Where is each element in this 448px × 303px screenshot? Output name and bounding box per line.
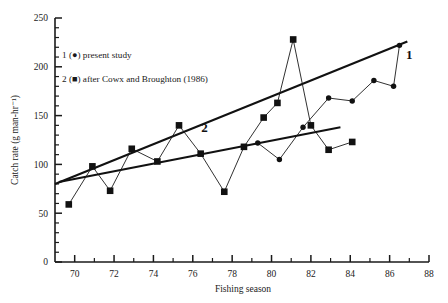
x-axis-tick-labels: 70727476788082848688 bbox=[70, 269, 434, 279]
x-tick-label: 80 bbox=[267, 269, 277, 279]
x-tick-label: 82 bbox=[306, 269, 316, 279]
data-point-series-1 bbox=[371, 78, 376, 83]
x-tick-label: 72 bbox=[109, 269, 119, 279]
series-annotation-2: 2 bbox=[201, 120, 208, 135]
data-point-series-2 bbox=[65, 201, 72, 208]
x-tick-label: 86 bbox=[385, 269, 395, 279]
x-axis-title: Fishing season bbox=[215, 284, 271, 294]
data-point-series-2 bbox=[107, 187, 114, 194]
x-tick-label: 88 bbox=[424, 269, 434, 279]
data-point-series-2 bbox=[325, 146, 332, 153]
data-point-series-2 bbox=[260, 114, 267, 121]
x-axis-ticks bbox=[75, 255, 429, 262]
legend-item-2: 2 (■) after Cowx and Broughton (1986) bbox=[62, 74, 208, 84]
chart-legend: 1 (●) present study 2 (■) after Cowx and… bbox=[62, 50, 208, 84]
data-point-series-1 bbox=[255, 140, 260, 145]
trend-lines bbox=[55, 41, 407, 183]
x-tick-label: 74 bbox=[149, 269, 159, 279]
data-point-series-2 bbox=[349, 139, 356, 146]
chart-figure: 050100150200250 70727476788082848688 Cat… bbox=[0, 0, 448, 303]
data-point-series-2 bbox=[154, 158, 161, 165]
legend-item-1: 1 (●) present study bbox=[62, 50, 132, 60]
data-point-series-2 bbox=[221, 188, 228, 195]
data-point-series-1 bbox=[326, 95, 331, 100]
x-tick-label: 84 bbox=[346, 269, 356, 279]
data-point-series-2 bbox=[290, 36, 297, 43]
data-point-series-2 bbox=[89, 163, 96, 170]
series-markers bbox=[65, 36, 402, 208]
y-axis-title: Catch rate (g man-hr⁻¹) bbox=[10, 95, 21, 185]
data-point-series-1 bbox=[397, 43, 402, 48]
data-point-series-2 bbox=[308, 122, 315, 129]
data-point-series-1 bbox=[277, 157, 282, 162]
data-point-series-2 bbox=[274, 100, 281, 107]
y-axis-ticks bbox=[55, 18, 62, 262]
trend-line-overall-regression bbox=[55, 41, 407, 183]
y-axis-tick-labels: 050100150200250 bbox=[34, 13, 49, 267]
y-tick-label: 100 bbox=[34, 160, 49, 170]
y-tick-label: 0 bbox=[43, 257, 48, 267]
catch-rate-chart: 050100150200250 70727476788082848688 Cat… bbox=[0, 0, 448, 303]
y-tick-label: 150 bbox=[34, 111, 49, 121]
x-tick-label: 70 bbox=[70, 269, 80, 279]
data-point-series-2 bbox=[197, 150, 204, 157]
y-tick-label: 250 bbox=[34, 13, 49, 23]
y-tick-label: 50 bbox=[39, 209, 49, 219]
x-tick-label: 78 bbox=[227, 269, 237, 279]
data-point-series-1 bbox=[300, 125, 305, 130]
x-tick-label: 76 bbox=[188, 269, 198, 279]
series-annotation-1: 1 bbox=[406, 47, 413, 62]
data-point-series-2 bbox=[128, 145, 135, 152]
series-annotations: 21 bbox=[201, 47, 412, 135]
y-tick-label: 200 bbox=[34, 62, 49, 72]
data-point-series-2 bbox=[176, 122, 183, 129]
data-point-series-1 bbox=[350, 98, 355, 103]
data-point-series-2 bbox=[241, 144, 248, 151]
data-point-series-1 bbox=[391, 84, 396, 89]
